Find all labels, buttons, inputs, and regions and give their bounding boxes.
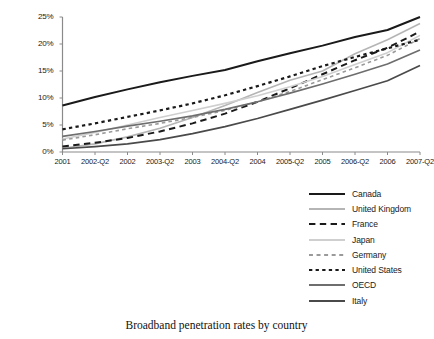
series-line-united-states [63,40,421,130]
figure-caption: Broadband penetration rates by country [0,318,433,332]
legend-item-canada[interactable]: Canada [308,186,433,201]
legend-label: Italy [346,296,367,306]
legend-item-oecd[interactable]: OECD [308,278,433,293]
legend-swatch-icon [308,203,346,215]
legend-item-france[interactable]: France [308,217,433,232]
x-tick-label: 2007-Q2 [406,158,434,166]
legend-swatch-icon [308,234,346,246]
legend-swatch-icon [308,279,346,291]
legend-item-japan[interactable]: Japan [308,232,433,247]
y-tick-label: 20% [26,40,54,48]
legend-item-italy[interactable]: Italy [308,293,433,308]
y-tick-label: 0% [26,148,54,156]
x-tick-label: 2005-Q2 [276,158,304,166]
y-tick-label: 15% [26,67,54,75]
chart-plot-area: 0%5%10%15%20%25% 20012002-Q220022003-Q22… [0,0,433,170]
x-tick-label: 2003-Q2 [146,158,174,166]
x-tick-label: 2002-Q2 [81,158,109,166]
legend-label: United States [346,265,402,275]
x-tick-label: 2006-Q2 [341,158,369,166]
legend-item-united-states[interactable]: United States [308,262,433,277]
legend-item-germany[interactable]: Germany [308,247,433,262]
legend-label: France [346,219,378,229]
legend-swatch-icon [308,249,346,261]
legend-label: Canada [346,189,381,199]
x-tick-label: 2006 [380,158,396,166]
chart-svg [0,0,433,170]
x-tick-label: 2001 [55,158,71,166]
series-line-united-kingdom [63,23,421,148]
x-tick-label: 2002 [120,158,136,166]
x-tick-label: 2004 [250,158,266,166]
legend-swatch-icon [308,218,346,230]
legend-swatch-icon [308,264,346,276]
series-line-canada [63,17,421,106]
y-tick-label: 25% [26,13,54,21]
legend-label: Germany [346,250,386,260]
y-tick-label: 10% [26,94,54,102]
legend-label: Japan [346,235,375,245]
y-tick-label: 5% [26,121,54,129]
legend-item-united-kingdom[interactable]: United Kingdom [308,201,433,216]
legend-label: OECD [346,280,376,290]
chart-series-lines [63,17,421,149]
legend-label: United Kingdom [346,204,411,214]
legend-swatch-icon [308,188,346,200]
chart-legend: CanadaUnited KingdomFranceJapanGermanyUn… [308,186,433,308]
legend-swatch-icon [308,295,346,307]
x-tick-label: 2004-Q2 [211,158,239,166]
chart-axes [63,17,421,152]
x-tick-label: 2003 [185,158,201,166]
x-tick-label: 2005 [315,158,331,166]
